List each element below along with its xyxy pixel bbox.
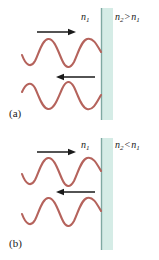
medium2-region-a <box>102 8 113 120</box>
incident-arrow-a <box>37 29 76 35</box>
medium2-region-b <box>102 138 113 250</box>
medium1-label-a: n1 <box>81 12 90 22</box>
medium1-label-b: n1 <box>81 140 90 150</box>
panel-a: n1 n2>n1 (a) <box>0 0 159 128</box>
reflected-arrow-a <box>56 74 95 80</box>
incident-arrow-b <box>37 149 76 155</box>
incident-wave-a <box>22 39 101 67</box>
reflected-wave-a <box>22 82 101 109</box>
reflected-wave-b <box>22 198 101 226</box>
panel-tag-b: (b) <box>9 238 22 249</box>
panel-b: n1 n2<n1 (b) <box>0 130 159 260</box>
medium2-relation-a: n2>n1 <box>115 12 140 22</box>
incident-wave-b <box>22 158 101 186</box>
wave-reflection-figure: n1 n2>n1 (a) <box>0 0 159 260</box>
reflected-arrow-b <box>56 189 95 195</box>
medium2-relation-b: n2<n1 <box>115 140 140 150</box>
panel-tag-a: (a) <box>9 108 21 119</box>
